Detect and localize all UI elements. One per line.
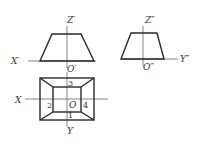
top-view: X Y O 1 2 3 4 xyxy=(14,72,108,136)
front-view: Z′ X′ O′ xyxy=(10,15,96,74)
side-trapezoid xyxy=(121,33,164,59)
side-view: Z″ Y″ O″ xyxy=(121,15,190,72)
front-origin-label: O′ xyxy=(67,64,76,74)
face-number-2: 2 xyxy=(47,101,52,110)
top-edge-tr xyxy=(81,78,94,87)
front-x-label: X′ xyxy=(10,56,19,66)
side-y-label: Y″ xyxy=(180,54,190,64)
top-edge-bl xyxy=(40,112,53,120)
face-number-1: 1 xyxy=(68,111,73,120)
side-z-label: Z″ xyxy=(144,15,155,25)
top-edge-tl xyxy=(40,78,53,87)
top-y-label: Y xyxy=(67,126,74,136)
projection-diagram: Z′ X′ O′ Z″ Y″ O″ X Y O 1 2 3 4 xyxy=(0,0,201,147)
front-z-label: Z′ xyxy=(66,15,75,25)
top-origin-label: O xyxy=(69,100,77,110)
top-x-label: X xyxy=(14,95,22,105)
top-edge-br xyxy=(81,112,94,120)
face-number-4: 4 xyxy=(83,101,88,110)
side-origin-label: O″ xyxy=(143,62,154,72)
face-number-3: 3 xyxy=(68,79,73,88)
